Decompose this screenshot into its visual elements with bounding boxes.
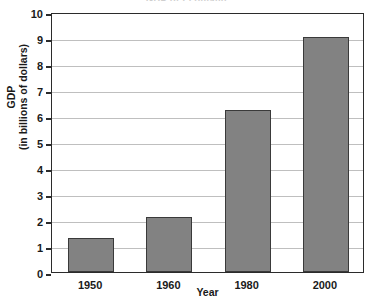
y-tick-label: 9 <box>37 34 43 46</box>
y-tick-mark <box>46 144 51 146</box>
y-tick-mark <box>46 222 51 224</box>
y-tick-mark <box>46 274 51 276</box>
y-tick-mark <box>46 196 51 198</box>
plot-area: 012345678910 <box>51 13 364 273</box>
bar-2000 <box>303 37 349 272</box>
y-axis-title-line-2: (in billions of dollars) <box>17 44 29 150</box>
y-tick-label: 3 <box>37 190 43 202</box>
y-tick-label: 6 <box>37 112 43 124</box>
bar-1980 <box>225 110 271 273</box>
bar-chart-figure: GDP of Econland GDP (in billions of doll… <box>0 0 373 302</box>
y-tick-mark <box>46 170 51 172</box>
y-tick-mark <box>46 118 51 120</box>
bar-1950 <box>68 238 114 272</box>
y-tick-mark <box>46 14 51 16</box>
bar-1960 <box>146 217 192 272</box>
y-tick-mark <box>46 248 51 250</box>
y-axis-title: GDP (in billions of dollars) <box>0 17 34 177</box>
y-tick-label: 7 <box>37 86 43 98</box>
y-tick-label: 2 <box>37 216 43 228</box>
y-tick-label: 1 <box>37 242 43 254</box>
y-tick-label: 5 <box>37 138 43 150</box>
y-tick-label: 0 <box>37 268 43 280</box>
chart-title: GDP of Econland <box>0 0 373 1</box>
y-tick-label: 10 <box>31 8 43 20</box>
y-tick-mark <box>46 66 51 68</box>
y-tick-mark <box>46 92 51 94</box>
y-axis-title-line-1: GDP <box>5 86 17 109</box>
y-tick-label: 4 <box>37 164 43 176</box>
y-tick-label: 8 <box>37 60 43 72</box>
x-axis-title: Year <box>51 286 364 298</box>
y-tick-mark <box>46 40 51 42</box>
